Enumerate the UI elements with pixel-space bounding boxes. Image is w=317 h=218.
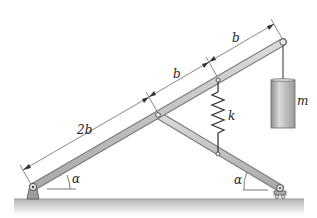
- pin-middle: [156, 113, 161, 118]
- label-alpha-right: α: [234, 173, 242, 187]
- pins: [156, 39, 287, 156]
- label-alpha-left: α: [72, 172, 80, 186]
- mass-block: [271, 79, 295, 129]
- linkage-diagram: 2b b b k m α α: [0, 0, 317, 218]
- label-mass-m: m: [297, 94, 308, 108]
- label-b-upper: b: [232, 31, 240, 45]
- ground: [14, 199, 304, 215]
- lower-bar: [158, 115, 280, 188]
- spring: [212, 80, 224, 154]
- label-b-middle: b: [173, 67, 181, 81]
- pin-spring-upper: [216, 78, 220, 82]
- label-spring-k: k: [228, 109, 235, 123]
- pin-spring-lower: [216, 152, 220, 156]
- pin-top: [280, 39, 286, 45]
- dimension-lines: [20, 19, 283, 186]
- label-2b: 2b: [76, 123, 92, 137]
